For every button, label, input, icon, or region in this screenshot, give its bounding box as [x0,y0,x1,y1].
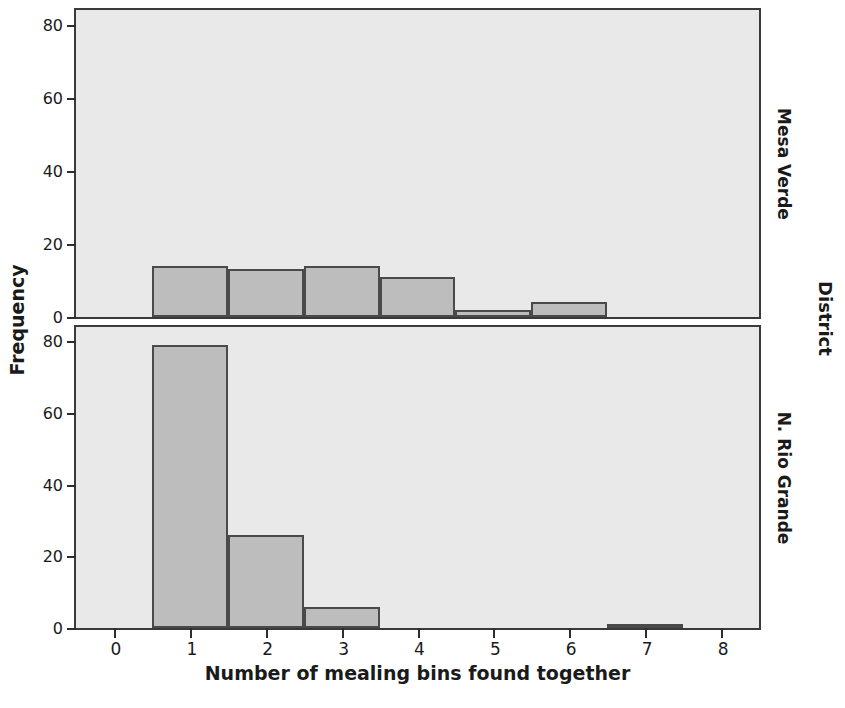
y-axis-tick-label: 0 [53,619,63,638]
panel-label-mesa-verde: Mesa Verde [763,8,805,319]
x-axis-tick-label: 0 [102,639,130,659]
y-axis-tick-label: 20 [43,235,63,254]
x-axis-tick: 1 [190,628,192,638]
panel-label-text: N. Rio Grande [774,411,794,544]
y-axis-tick: 80 [67,25,76,27]
panel-label-n-rio-grande: N. Rio Grande [763,325,805,630]
histogram-bar [455,310,531,317]
y-axis-tick: 40 [67,485,76,487]
x-axis-tick: 8 [721,628,723,638]
histogram-bar [304,607,380,629]
histogram-chart: Frequency 020406080 020406080012345678 M… [0,0,845,708]
y-axis-tick: 20 [67,556,76,558]
histogram-bar [380,277,456,317]
x-axis-tick: 0 [114,628,116,638]
panel-label-text: Mesa Verde [774,108,794,220]
panel-mesa-verde: 020406080 [74,8,761,319]
x-axis-tick: 4 [418,628,420,638]
y-axis-tick: 20 [67,244,76,246]
x-axis-tick: 6 [569,628,571,638]
histogram-bar [152,266,228,317]
x-axis-tick-label: 7 [633,639,661,659]
x-axis-tick-label: 4 [406,639,434,659]
outer-right-axis-title: District [805,0,845,636]
y-axis-tick: 0 [67,628,76,630]
x-axis-tick: 7 [645,628,647,638]
y-axis-tick: 80 [67,341,76,343]
y-axis-title: Frequency [0,0,34,640]
histogram-bar [228,269,304,317]
y-axis-tick-label: 60 [43,89,63,108]
y-axis-tick: 60 [67,413,76,415]
histogram-bar [304,266,380,317]
panel-n-rio-grande: 020406080012345678 [74,325,761,630]
plot-area-n-rio-grande: 020406080012345678 [76,327,759,628]
y-axis-tick-label: 80 [43,332,63,351]
x-axis-tick-label: 8 [709,639,737,659]
plot-area-mesa-verde: 020406080 [76,10,759,317]
y-axis-tick: 0 [67,317,76,319]
x-axis-tick-label: 5 [481,639,509,659]
histogram-bar [152,345,228,628]
x-axis-tick: 3 [342,628,344,638]
x-axis-tick: 2 [266,628,268,638]
x-axis-tick-label: 3 [330,639,358,659]
x-axis-tick-label: 2 [254,639,282,659]
y-axis-tick: 40 [67,171,76,173]
y-axis-tick-label: 80 [43,16,63,35]
histogram-bar [531,302,607,317]
x-axis-title: Number of mealing bins found together [74,662,761,684]
x-axis-tick-label: 6 [557,639,585,659]
y-axis-tick-label: 40 [43,162,63,181]
y-axis-tick: 60 [67,98,76,100]
y-axis-tick-label: 20 [43,547,63,566]
y-axis-tick-label: 40 [43,476,63,495]
x-axis-tick-label: 1 [178,639,206,659]
outer-right-axis-title-text: District [815,281,836,356]
histogram-bar [228,535,304,628]
x-axis-tick: 5 [493,628,495,638]
y-axis-tick-label: 0 [53,308,63,327]
y-axis-tick-label: 60 [43,404,63,423]
y-axis-title-text: Frequency [6,264,28,375]
